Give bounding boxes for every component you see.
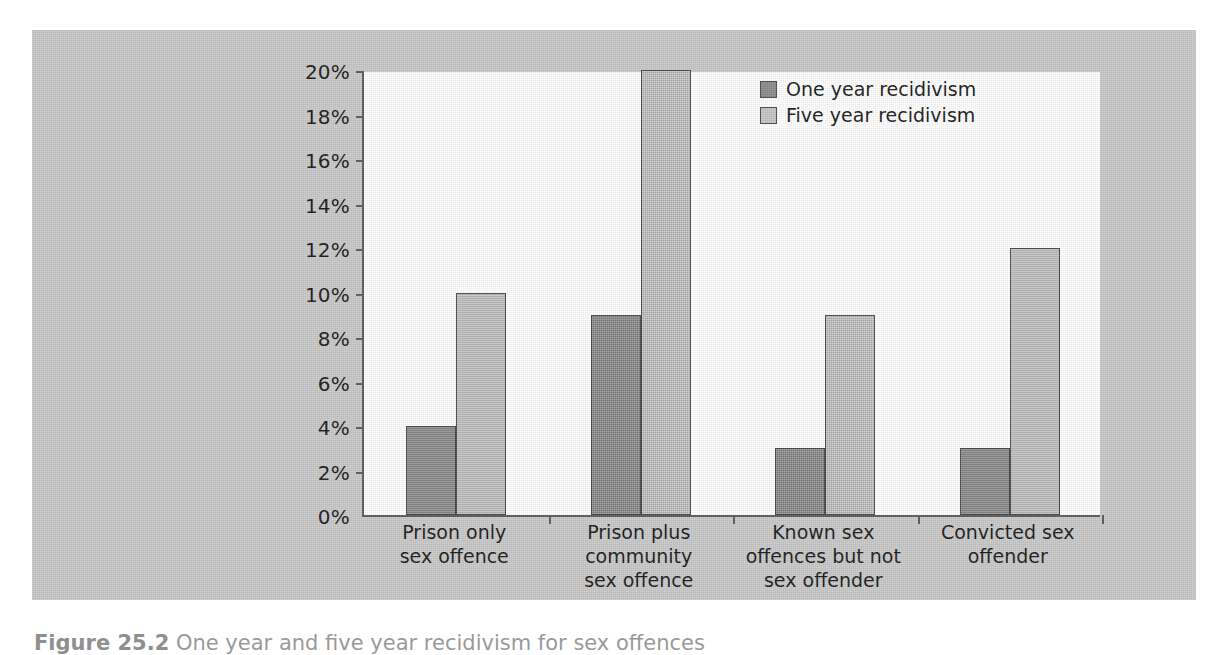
bar-group — [918, 72, 1103, 515]
plot-area — [362, 72, 1100, 517]
y-axis-tick-label: 10% — [305, 283, 350, 307]
y-axis-tick-mark — [356, 249, 364, 251]
y-axis-tick-mark — [356, 205, 364, 207]
x-axis-category-label: Prison plus community sex offence — [547, 520, 732, 592]
bar-one-year — [960, 448, 1010, 515]
x-axis-category-label: Known sex offences but not sex offender — [731, 520, 916, 592]
legend-swatch-icon — [760, 107, 777, 124]
legend-swatch-icon — [760, 81, 777, 98]
figure-caption: Figure 25.2 One year and five year recid… — [34, 631, 1134, 655]
chart-legend: One year recidivismFive year recidivism — [760, 78, 976, 126]
y-axis-tick-label: 20% — [305, 60, 350, 84]
bar-five-year — [825, 315, 875, 515]
bar-one-year — [406, 426, 456, 515]
y-axis-tick-label: 14% — [305, 194, 350, 218]
caption-text: One year and five year recidivism for se… — [176, 631, 705, 655]
y-axis-tick-mark — [356, 116, 364, 118]
legend-item: One year recidivism — [760, 78, 976, 100]
y-axis-tick-label: 16% — [305, 149, 350, 173]
y-axis-tick-mark — [356, 71, 364, 73]
bar-five-year — [456, 293, 506, 516]
bar-five-year — [1010, 248, 1060, 515]
y-axis-tick-mark — [356, 338, 364, 340]
x-axis-category-label: Convicted sex offender — [916, 520, 1101, 568]
y-axis-tick-label: 6% — [318, 372, 350, 396]
y-axis-tick-label: 8% — [318, 327, 350, 351]
bar-one-year — [591, 315, 641, 515]
y-axis-tick-label: 12% — [305, 238, 350, 262]
y-axis-tick-mark — [356, 294, 364, 296]
x-axis: Prison only sex offencePrison plus commu… — [362, 520, 1100, 600]
caption-number: Figure 25.2 — [34, 631, 169, 655]
y-axis-tick-label: 18% — [305, 105, 350, 129]
legend-label: Five year recidivism — [786, 104, 975, 126]
y-axis-tick-mark — [356, 427, 364, 429]
y-axis-tick-mark — [356, 383, 364, 385]
bar-five-year — [641, 70, 691, 515]
x-axis-category-label: Prison only sex offence — [362, 520, 547, 568]
y-axis-tick-mark — [356, 160, 364, 162]
bar-one-year — [775, 448, 825, 515]
legend-item: Five year recidivism — [760, 104, 976, 126]
bars-layer — [364, 72, 1100, 515]
y-axis: 0%2%4%6%8%10%12%14%16%18%20% — [300, 72, 350, 517]
figure-panel: 0%2%4%6%8%10%12%14%16%18%20% Prison only… — [32, 30, 1196, 600]
bar-group — [364, 72, 549, 515]
y-axis-tick-label: 0% — [318, 505, 350, 529]
legend-label: One year recidivism — [786, 78, 976, 100]
x-axis-tick-mark — [1102, 515, 1104, 524]
y-axis-tick-label: 4% — [318, 416, 350, 440]
chart-plot-wrapper: 0%2%4%6%8%10%12%14%16%18%20% — [300, 72, 1100, 517]
y-axis-tick-mark — [356, 472, 364, 474]
y-axis-tick-label: 2% — [318, 461, 350, 485]
bar-group — [549, 72, 734, 515]
bar-group — [733, 72, 918, 515]
